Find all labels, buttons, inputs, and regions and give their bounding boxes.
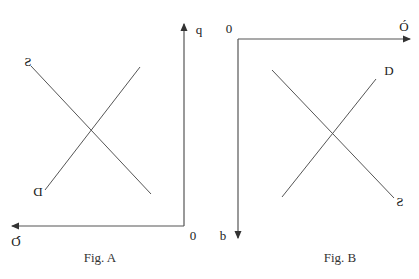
fig-a-demand-label: D bbox=[33, 185, 42, 200]
fig-b-demand-label: D bbox=[384, 63, 393, 78]
fig-b-origin-label: 0 bbox=[226, 21, 233, 36]
fig-b-horizontal-axis-label: Ó bbox=[399, 19, 408, 34]
fig-a-horizontal-axis-label: Q bbox=[11, 235, 21, 250]
fig-b-demand-curve bbox=[282, 79, 376, 197]
fig-a-caption: Fig. A bbox=[84, 250, 117, 265]
fig-a-vertical-axis-label: q bbox=[196, 22, 203, 37]
fig-b-supply-curve bbox=[272, 70, 394, 198]
fig-b-vertical-axis-label: b bbox=[220, 228, 227, 243]
fig-b-caption: Fig. B bbox=[324, 250, 357, 265]
supply-demand-diagram: S D q Q 0 Fig. A 0 Ó D S b Fig. B bbox=[0, 0, 419, 279]
fig-a-supply-label: S bbox=[24, 54, 31, 69]
fig-a-origin-label: 0 bbox=[190, 228, 197, 243]
fig-a: S D q Q 0 Fig. A bbox=[11, 22, 202, 265]
fig-a-demand-curve bbox=[45, 67, 140, 190]
fig-b-supply-label: S bbox=[396, 194, 403, 209]
fig-b: 0 Ó D S b Fig. B bbox=[220, 19, 410, 265]
